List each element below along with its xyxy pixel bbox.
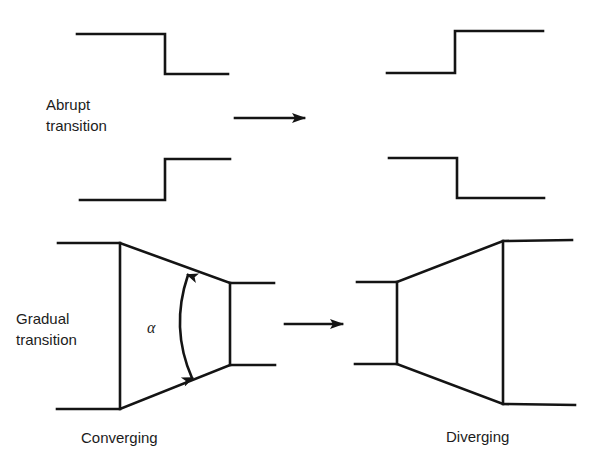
converging-upper-wall: [58, 243, 274, 283]
angle-arc-icon: [180, 275, 192, 378]
abrupt-label-line2: transition: [46, 117, 107, 134]
diverging-section: [355, 240, 575, 405]
transition-diagram: Abrupt transition α Gradual transition C…: [0, 0, 593, 463]
gradual-label-line1: Gradual: [16, 310, 69, 327]
angle-alpha-symbol: α: [147, 319, 156, 336]
diverging-upper-wall: [357, 240, 572, 282]
abrupt-contraction-lower-wall: [80, 159, 230, 200]
converging-caption: Converging: [81, 429, 158, 446]
abrupt-contraction-upper-wall: [77, 34, 228, 74]
diverging-lower-wall: [355, 364, 575, 405]
diverging-caption: Diverging: [446, 428, 509, 445]
abrupt-expansion-upper-wall: [387, 31, 543, 73]
abrupt-expansion: [387, 31, 544, 198]
abrupt-expansion-lower-wall: [389, 158, 544, 198]
gradual-label-line2: transition: [16, 331, 77, 348]
abrupt-label-line1: Abrupt: [46, 96, 91, 113]
converging-lower-wall: [57, 365, 275, 409]
converging-section: α: [57, 243, 275, 409]
